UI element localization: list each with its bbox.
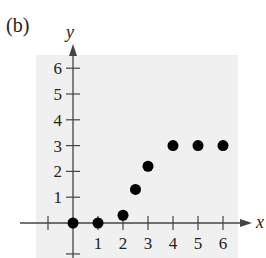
- y-tick-label: 1: [54, 188, 63, 207]
- y-tick-label: 5: [54, 85, 63, 104]
- x-tick-label: 3: [144, 234, 153, 253]
- data-point: [68, 218, 79, 229]
- x-tick-label: 6: [219, 234, 228, 253]
- x-tick-label: 5: [194, 234, 203, 253]
- scatter-chart: xy123456123456: [0, 0, 266, 258]
- data-point: [93, 218, 104, 229]
- x-axis-label: x: [255, 212, 264, 232]
- y-axis-label: y: [64, 22, 74, 42]
- data-point: [193, 140, 204, 151]
- y-tick-label: 4: [54, 111, 63, 130]
- x-tick-label: 2: [119, 234, 128, 253]
- y-tick-label: 2: [54, 162, 63, 181]
- x-tick-label: 4: [169, 234, 178, 253]
- data-point: [168, 140, 179, 151]
- y-tick-label: 6: [54, 59, 63, 78]
- x-tick-label: 1: [94, 234, 103, 253]
- plot-background: [36, 55, 238, 258]
- data-point: [143, 161, 154, 172]
- y-axis-arrow-icon: [69, 44, 77, 56]
- data-point: [218, 140, 229, 151]
- data-point: [130, 184, 141, 195]
- y-tick-label: 3: [54, 137, 63, 156]
- x-axis-arrow-icon: [240, 219, 252, 227]
- data-point: [118, 210, 129, 221]
